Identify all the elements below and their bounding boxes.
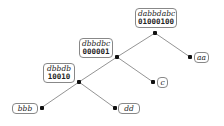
leaf-label: c [160, 79, 165, 87]
leaf-label: dd [121, 105, 137, 113]
node-n2: dbbdb 10010 [43, 63, 75, 83]
edge-n2-dd [79, 82, 115, 108]
edge-root-n1 [117, 33, 155, 57]
node-dot [153, 31, 157, 35]
leaf-c: c [157, 77, 168, 88]
leaf-dot [151, 80, 155, 84]
node-bits: 10010 [46, 73, 72, 81]
node-dot [115, 55, 119, 59]
edge-root-aa [155, 33, 190, 57]
node-root: dabbdabc 01000100 [135, 8, 177, 28]
edge-n2-bbb [41, 82, 79, 108]
leaf-bbb: bbb [12, 103, 38, 114]
node-dot [77, 80, 81, 84]
leaf-label: aa [197, 54, 206, 62]
leaf-dot [40, 106, 44, 110]
leaf-dot [188, 55, 192, 59]
node-n1: dbbdbc 000001 [79, 38, 113, 58]
edge-n1-n2 [79, 57, 117, 82]
leaf-dot [113, 106, 117, 110]
node-bits: 000001 [82, 48, 110, 56]
leaf-aa: aa [194, 52, 209, 63]
leaf-label: bbb [15, 105, 35, 113]
edge-n1-c [117, 57, 153, 82]
leaf-dd: dd [118, 103, 140, 114]
node-bits: 01000100 [138, 18, 174, 26]
